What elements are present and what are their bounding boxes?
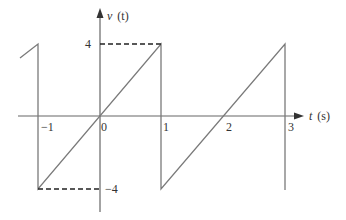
v-label-neg4: −4 — [105, 182, 118, 196]
tick-label-0: 0 — [101, 120, 107, 134]
tick-label-3: 3 — [288, 120, 294, 134]
tick-label-1: 1 — [163, 120, 169, 134]
tick-label-2: 2 — [226, 120, 232, 134]
v-axis-arrow-icon — [97, 8, 104, 18]
t-axis-arrow-icon — [294, 113, 304, 120]
y-axis-label: v (t) — [107, 9, 129, 23]
sawtooth-curve — [20, 44, 285, 190]
tick-label-neg1: −1 — [41, 120, 54, 134]
sawtooth-plot: v (t) t (s) −1 0 1 2 3 4 −4 — [0, 0, 346, 220]
v-label-4: 4 — [85, 37, 91, 51]
x-axis-label: t (s) — [309, 109, 330, 123]
